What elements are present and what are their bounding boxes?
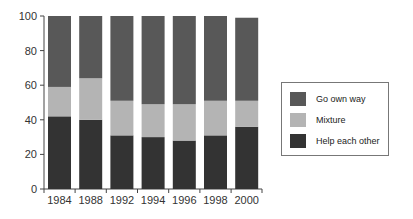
legend-item-go-own-way: Go own way (290, 92, 366, 106)
y-tick-label: 0 (31, 183, 37, 195)
x-tick-label: 1988 (78, 194, 102, 206)
bar-segment (204, 135, 227, 189)
bar-segment (173, 16, 196, 104)
bar-segment (48, 116, 71, 189)
legend-label: Help each other (316, 136, 380, 146)
y-tick-label: 100 (19, 10, 37, 22)
legend-swatch-help-each-other (290, 134, 306, 148)
bar-segment (204, 101, 227, 136)
x-tick-label: 1992 (110, 194, 134, 206)
bar-segment (48, 16, 71, 87)
bar-segment (110, 101, 133, 136)
bar-segment (142, 137, 165, 189)
legend-swatch-go-own-way (290, 92, 306, 106)
x-tick-label: 1984 (47, 194, 71, 206)
bar-segment (79, 120, 102, 189)
stacked-bar-chart: 0204060801001984198819921994199619982000… (0, 0, 413, 219)
bar-segment (235, 101, 258, 127)
y-tick-label: 20 (25, 148, 37, 160)
bar-segment (235, 127, 258, 189)
x-tick-label: 1994 (141, 194, 165, 206)
bar-segment (48, 87, 71, 116)
x-tick-label: 1998 (203, 194, 227, 206)
bar-segment (79, 78, 102, 120)
x-tick-label: 2000 (234, 194, 258, 206)
bar-segment (173, 104, 196, 140)
bar-segment (142, 104, 165, 137)
bar-segment (235, 18, 258, 101)
y-tick-label: 80 (25, 45, 37, 57)
bar-segment (204, 16, 227, 101)
legend-label: Go own way (316, 94, 366, 104)
bar-segment (79, 16, 102, 78)
legend-item-mixture: Mixture (290, 113, 346, 127)
bar-segment (110, 135, 133, 189)
y-tick-label: 40 (25, 114, 37, 126)
legend: Go own way Mixture Help each other (281, 82, 389, 156)
y-tick-label: 60 (25, 79, 37, 91)
bar-segment (173, 141, 196, 189)
legend-item-help-each-other: Help each other (290, 134, 380, 148)
legend-label: Mixture (316, 115, 346, 125)
bar-segment (110, 16, 133, 101)
x-tick-label: 1996 (172, 194, 196, 206)
legend-swatch-mixture (290, 113, 306, 127)
bar-segment (142, 16, 165, 104)
